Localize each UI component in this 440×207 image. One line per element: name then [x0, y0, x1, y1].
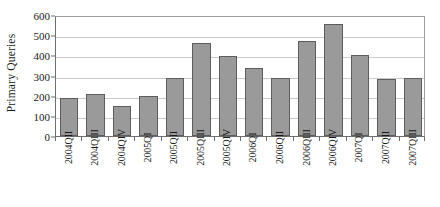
x-tick-mark [424, 137, 425, 141]
x-tick-mark [372, 137, 373, 141]
x-tick-mark [266, 137, 267, 141]
x-tick-label: 2004QIV [108, 142, 134, 204]
x-tick-label-text: 2005QII [168, 131, 179, 164]
bars-layer [56, 17, 424, 136]
bar [219, 56, 238, 136]
y-tick-label: 200 [34, 91, 51, 103]
x-tick-label: 2006QIII [293, 142, 319, 204]
x-tick-mark [161, 137, 162, 141]
bar-chart-figure: Primary Queries 0100200300400500600 2004… [0, 0, 440, 207]
x-tick-label: 2005QIV [214, 142, 240, 204]
x-tick-mark [108, 137, 109, 141]
x-tick-mark [214, 137, 215, 141]
bar [377, 79, 396, 136]
y-axis-tick-labels: 0100200300400500600 [22, 10, 55, 140]
x-tick-label-text: 2004QII [63, 131, 74, 164]
x-tick-mark [319, 137, 320, 141]
x-tick-label-text: 2005QIV [221, 129, 232, 166]
x-tick-label: 2006QIV [319, 142, 345, 204]
x-tick-mark [187, 137, 188, 141]
bar [245, 68, 264, 136]
x-tick-label: 2005QI [134, 142, 160, 204]
x-tick-label: 2006QI [240, 142, 266, 204]
x-tick-label-text: 2005QIII [195, 129, 206, 165]
x-tick-label-text: 2006QII [274, 131, 285, 164]
x-tick-label-text: 2006QI [248, 133, 259, 163]
x-tick-label-text: 2006QIII [301, 129, 312, 165]
y-tick-label: 600 [34, 10, 51, 22]
y-tick-label: 100 [34, 111, 51, 123]
x-tick-mark [293, 137, 294, 141]
y-tick-label: 300 [34, 71, 51, 83]
x-tick-label-text: 2007QII [380, 131, 391, 164]
x-tick-mark [240, 137, 241, 141]
bar [298, 41, 317, 136]
y-axis-title: Primary Queries [0, 0, 22, 145]
bar [324, 24, 343, 136]
x-tick-mark [55, 137, 56, 141]
x-tick-label-text: 2006QIV [327, 129, 338, 166]
x-tick-label: 2007QII [372, 142, 398, 204]
bar [139, 96, 158, 136]
x-tick-label: 2004QII [55, 142, 81, 204]
bar [166, 78, 185, 136]
bar [404, 78, 423, 136]
y-axis-title-text: Primary Queries [5, 33, 17, 112]
x-tick-mark [346, 137, 347, 141]
x-tick-label: 2007QI [346, 142, 372, 204]
x-tick-label-text: 2004QIV [116, 129, 127, 166]
plot-area [55, 16, 425, 137]
x-tick-label: 2004QIII [81, 142, 107, 204]
x-tick-label: 2005QIII [187, 142, 213, 204]
x-axis-tick-labels: 2004QII2004QIII2004QIV2005QI2005QII2005Q… [55, 142, 425, 206]
bar [271, 78, 290, 136]
x-tick-label: 2007QIII [399, 142, 425, 204]
x-tick-mark [399, 137, 400, 141]
y-tick-label: 500 [34, 30, 51, 42]
x-tick-mark [134, 137, 135, 141]
x-tick-mark [81, 137, 82, 141]
x-tick-label-text: 2007QIII [406, 129, 417, 165]
y-tick-label: 400 [34, 50, 51, 62]
bar [351, 55, 370, 136]
x-tick-label: 2006QII [266, 142, 292, 204]
x-tick-label-text: 2007QI [353, 133, 364, 163]
x-tick-label-text: 2004QIII [89, 129, 100, 165]
x-tick-label: 2005QII [161, 142, 187, 204]
x-tick-label-text: 2005QI [142, 133, 153, 163]
y-tick-label: 0 [45, 131, 51, 143]
bar [192, 43, 211, 136]
